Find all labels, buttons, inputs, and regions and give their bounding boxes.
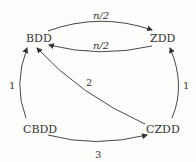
diagram-canvas: BDD ZDD CBDD CZDD n/2 n/2 1 1 2 3: [0, 0, 196, 162]
edge-czdd-to-zdd: [170, 48, 179, 118]
edge-label-cbdd-czdd: 3: [95, 149, 101, 160]
edge-label-czdd-bdd: 2: [86, 77, 92, 88]
edge-label-cbdd-bdd: 1: [9, 80, 15, 91]
edge-label-zdd-bdd: n/2: [93, 40, 109, 51]
node-bdd: BDD: [26, 33, 52, 45]
node-zdd: ZDD: [150, 33, 175, 45]
node-cbdd: CBDD: [23, 124, 57, 136]
edge-label-czdd-zdd: 1: [183, 80, 189, 91]
node-czdd: CZDD: [146, 124, 180, 136]
edge-label-bdd-zdd: n/2: [93, 10, 109, 21]
edge-cbdd-to-czdd: [48, 135, 147, 142]
edge-cbdd-to-bdd: [20, 48, 27, 118]
edge-bdd-to-zdd: [48, 21, 152, 31]
edges-layer: [0, 0, 196, 162]
